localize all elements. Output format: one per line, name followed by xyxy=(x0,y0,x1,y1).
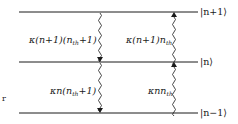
arrow-up-icon xyxy=(171,12,177,17)
rate-label-absorption-lower: κnnth xyxy=(148,86,173,97)
level-label-lower: |n−1⟩ xyxy=(200,108,227,118)
rate-label-emission-upper: κ(n+1)(nth+1) xyxy=(29,35,97,46)
arrow-up-icon xyxy=(171,62,177,67)
arrow-down-icon xyxy=(97,108,103,113)
rate-label-absorption-upper: κ(n+1)nth xyxy=(126,35,172,46)
wavy-line-emission-lower xyxy=(99,63,102,112)
level-label-upper: |n+1⟩ xyxy=(200,7,227,17)
wavy-line-emission-upper xyxy=(99,13,102,62)
level-label-middle: |n⟩ xyxy=(200,57,213,67)
arrow-down-icon xyxy=(97,57,103,62)
wavy-line-absorption-upper xyxy=(173,17,176,66)
rate-label-emission-lower: κn(nth+1) xyxy=(50,86,96,97)
stray-text: r xyxy=(2,95,6,103)
